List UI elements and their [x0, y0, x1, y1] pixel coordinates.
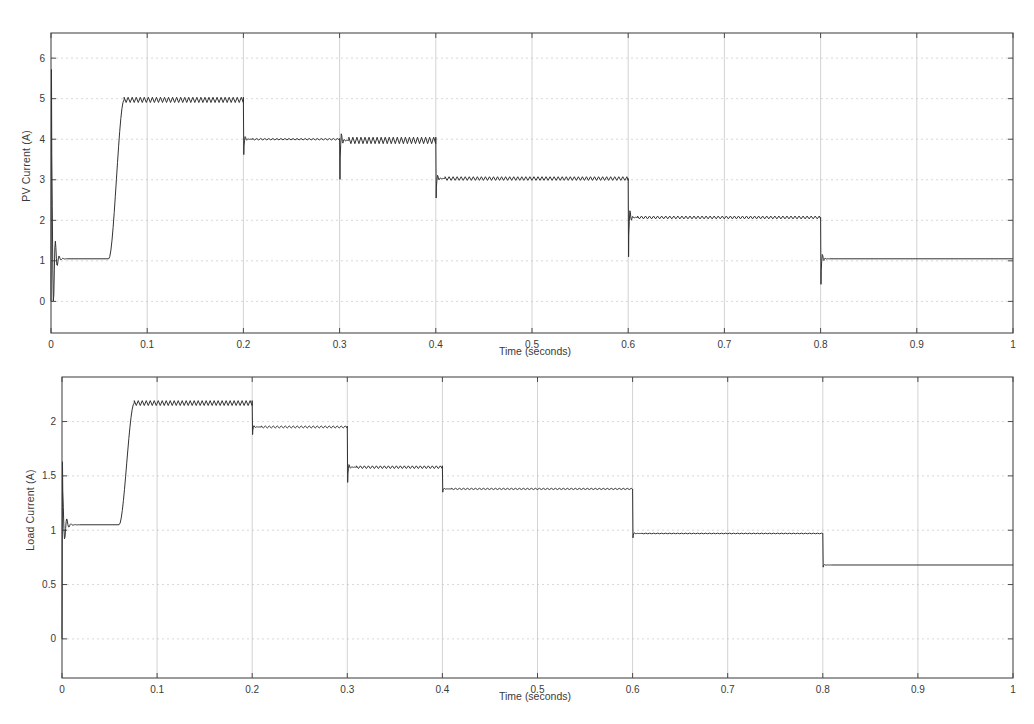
x-tick-label: 0.8 — [816, 684, 830, 695]
y-tick-label: 2 — [50, 416, 56, 427]
y-tick-label: 5 — [39, 93, 45, 104]
y-tick-label: 2 — [39, 215, 45, 226]
plot-area-load-current: 00.10.20.30.40.50.60.70.80.9100.511.52 — [0, 356, 1034, 724]
y-tick-label: 0 — [39, 296, 45, 307]
x-tick-label: 0 — [59, 684, 65, 695]
x-tick-label: 0.3 — [340, 684, 354, 695]
y-tick-label: 6 — [39, 53, 45, 64]
x-tick-label: 0.9 — [910, 339, 924, 350]
y-tick-label: 3 — [39, 174, 45, 185]
x-tick-label: 0.3 — [333, 339, 347, 350]
x-tick-label: 0.2 — [245, 684, 259, 695]
x-tick-label: 0 — [48, 339, 54, 350]
figure-two-stacked-plots: PV Current (A) Time (seconds) 00.10.20.3… — [0, 0, 1034, 724]
x-tick-label: 1 — [1010, 684, 1016, 695]
y-tick-label: 0 — [50, 633, 56, 644]
x-tick-label: 0.8 — [814, 339, 828, 350]
y-tick-label: 4 — [39, 134, 45, 145]
x-tick-label: 0.9 — [911, 684, 925, 695]
y-tick-label: 1.5 — [42, 470, 56, 481]
y-axis-label-pv-current: PV Current (A) — [20, 106, 32, 226]
x-tick-label: 1 — [1010, 339, 1016, 350]
x-tick-label: 0.7 — [717, 339, 731, 350]
x-tick-label: 0.7 — [721, 684, 735, 695]
y-tick-label: 0.5 — [42, 579, 56, 590]
x-axis-label-load-current: Time (seconds) — [440, 690, 630, 702]
chart-load-current: Load Current (A) Time (seconds) 00.10.20… — [0, 356, 1034, 724]
x-tick-label: 0.2 — [236, 339, 250, 350]
y-tick-label: 1 — [50, 525, 56, 536]
chart-pv-current: PV Current (A) Time (seconds) 00.10.20.3… — [0, 0, 1034, 368]
y-tick-label: 1 — [39, 255, 45, 266]
x-tick-label: 0.1 — [150, 684, 164, 695]
x-tick-label: 0.1 — [140, 339, 154, 350]
plot-area-pv-current: 00.10.20.30.40.50.60.70.80.910123456 — [0, 0, 1034, 368]
y-axis-label-load-current: Load Current (A) — [24, 450, 36, 570]
